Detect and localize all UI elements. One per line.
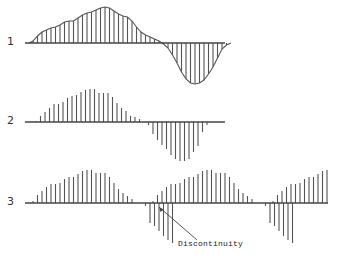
row1-envelope [29, 7, 231, 84]
discontinuity-arrow-line [159, 207, 197, 240]
discontinuity-arrowhead-icon [159, 207, 164, 212]
row-label-3: 3 [7, 195, 14, 208]
discontinuity-label: Discontinuity [178, 239, 243, 248]
waveform-canvas [0, 0, 337, 259]
row-label-1: 1 [7, 35, 14, 48]
row-label-2: 2 [7, 114, 14, 127]
